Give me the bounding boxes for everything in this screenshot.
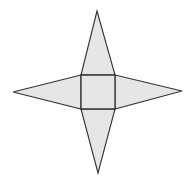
triangle-bottom — [81, 109, 115, 173]
triangle-right — [115, 75, 182, 109]
triangle-left — [13, 75, 81, 109]
triangle-top — [81, 11, 115, 75]
square-base — [81, 75, 115, 109]
pyramid-net-diagram — [0, 0, 194, 180]
